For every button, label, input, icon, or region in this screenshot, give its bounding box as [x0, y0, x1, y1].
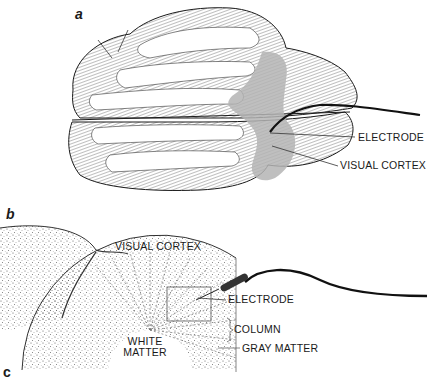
panel-label-b: b [6, 206, 15, 222]
callout-visual-cortex-b: VISUAL CORTEX [115, 241, 201, 252]
panel-b-cross-section [0, 226, 427, 372]
panel-label-c: c [3, 364, 11, 380]
neuroscience-diagram [0, 0, 427, 381]
callout-white-matter: WHITE MATTER [115, 336, 175, 358]
callout-visual-cortex-a: VISUAL CORTEX [340, 160, 426, 171]
panel-label-a: a [75, 6, 83, 22]
callout-electrode-a: ELECTRODE [358, 132, 424, 143]
white-matter-line2: MATTER [115, 347, 175, 358]
callout-gray-matter: GRAY MATTER [242, 343, 318, 354]
callout-electrode-b: ELECTRODE [228, 294, 294, 305]
callout-column: COLUMN [234, 324, 281, 335]
